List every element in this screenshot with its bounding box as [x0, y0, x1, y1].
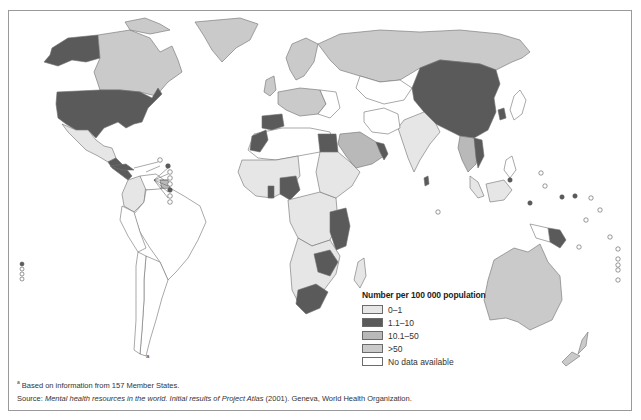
region-madagascar	[354, 258, 366, 288]
footnote: aBased on information from 157 Member St…	[17, 379, 179, 390]
region-new-guinea-west	[530, 224, 550, 242]
legend-swatch	[362, 305, 383, 314]
footnote-text: Based on information from 157 Member Sta…	[22, 381, 180, 390]
region-egypt	[318, 134, 338, 152]
legend-label: No data available	[388, 357, 454, 367]
region-east-africa	[330, 208, 350, 250]
region-nigeria	[280, 176, 300, 200]
region-ghana	[268, 186, 274, 198]
antarctic-marker: a	[146, 353, 150, 359]
legend: Number per 100 000 population 0–1 1.1–10…	[362, 290, 486, 368]
region-japan	[510, 90, 526, 120]
legend-swatch	[362, 318, 383, 327]
legend-label: >50	[388, 344, 402, 354]
legend-swatch	[362, 331, 383, 340]
region-iran	[364, 108, 400, 134]
legend-item-1-10: 1.1–10	[362, 316, 486, 329]
source-title: Mental health resources in the world. In…	[45, 394, 264, 403]
region-australia	[484, 244, 562, 330]
region-philippines	[504, 156, 516, 178]
legend-item-10-50: 10.1–50	[362, 329, 486, 342]
legend-label: 10.1–50	[388, 331, 419, 341]
legend-label: 0–1	[388, 305, 402, 315]
region-new-zealand	[562, 332, 588, 366]
footnote-marker: a	[17, 379, 20, 385]
legend-item-0-1: 0–1	[362, 303, 486, 316]
source-citation: Source: Mental health resources in the w…	[17, 394, 412, 403]
world-map: a	[0, 0, 641, 420]
region-canada	[94, 30, 182, 96]
legend-item-no-data: No data available	[362, 355, 486, 368]
region-korea	[498, 108, 506, 120]
region-malaysia	[470, 176, 484, 198]
region-spain	[262, 114, 284, 130]
region-alaska	[44, 35, 100, 66]
source-prefix: Source:	[17, 394, 45, 403]
region-western-europe	[278, 88, 326, 116]
legend-item-over-50: >50	[362, 342, 486, 355]
source-suffix: (2001). Geneva, World Health Organizatio…	[264, 394, 412, 403]
region-scandinavia	[286, 38, 318, 80]
region-papua-new-guinea	[548, 228, 566, 248]
legend-swatch	[362, 344, 383, 353]
region-sri-lanka	[424, 176, 429, 186]
region-greenland	[195, 18, 258, 62]
legend-swatch	[362, 357, 383, 366]
region-indonesia	[486, 180, 512, 202]
region-uk	[264, 76, 276, 96]
legend-title: Number per 100 000 population	[362, 290, 486, 300]
legend-label: 1.1–10	[388, 318, 414, 328]
